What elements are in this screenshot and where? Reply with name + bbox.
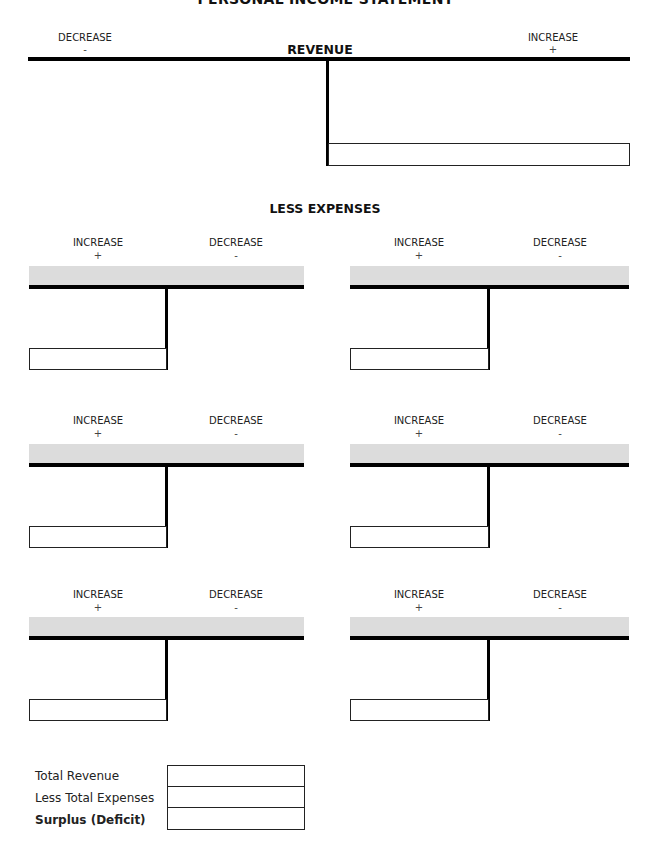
- expense-decrease-label: DECREASE: [176, 589, 296, 601]
- revenue-top-rule: [28, 57, 630, 61]
- expense-decrease-sign: -: [500, 429, 620, 439]
- expense-increase-sign: +: [38, 603, 158, 613]
- revenue-increase-sign: +: [493, 45, 613, 55]
- totals-table: [167, 765, 305, 830]
- expenses-heading: LESS EXPENSES: [225, 201, 425, 216]
- expense-decrease-label: DECREASE: [500, 237, 620, 249]
- expense-decrease-label: DECREASE: [176, 415, 296, 427]
- expense-increase-label: INCREASE: [38, 237, 158, 249]
- surplus-deficit-field[interactable]: [168, 808, 304, 829]
- expense-decrease-label: DECREASE: [176, 237, 296, 249]
- surplus-deficit-label: Surplus (Deficit): [35, 813, 146, 827]
- account-name-field[interactable]: [350, 444, 629, 464]
- revenue-decrease-label: DECREASE: [25, 32, 145, 44]
- expense-decrease-sign: -: [176, 603, 296, 613]
- account-name-field[interactable]: [350, 617, 629, 637]
- revenue-decrease-sign: -: [25, 45, 145, 55]
- expense-total-field[interactable]: [350, 348, 489, 370]
- expense-total-field[interactable]: [29, 348, 167, 370]
- expense-increase-label: INCREASE: [359, 237, 479, 249]
- revenue-total-field[interactable]: [328, 143, 630, 166]
- total-revenue-label: Total Revenue: [35, 769, 119, 783]
- less-total-expenses-field[interactable]: [168, 787, 304, 808]
- account-name-field[interactable]: [29, 617, 304, 637]
- account-name-field[interactable]: [29, 266, 304, 286]
- expense-increase-sign: +: [359, 429, 479, 439]
- expense-decrease-sign: -: [176, 429, 296, 439]
- account-name-field[interactable]: [350, 266, 629, 286]
- expense-total-field[interactable]: [350, 699, 489, 721]
- expense-increase-sign: +: [359, 251, 479, 261]
- expense-increase-sign: +: [38, 251, 158, 261]
- expense-decrease-label: DECREASE: [500, 589, 620, 601]
- total-revenue-field[interactable]: [168, 766, 304, 787]
- expense-increase-label: INCREASE: [359, 415, 479, 427]
- expense-total-field[interactable]: [29, 699, 167, 721]
- expense-decrease-sign: -: [176, 251, 296, 261]
- revenue-heading: REVENUE: [260, 42, 380, 57]
- account-name-field[interactable]: [29, 444, 304, 464]
- expense-decrease-label: DECREASE: [500, 415, 620, 427]
- expense-increase-label: INCREASE: [38, 589, 158, 601]
- document-title: PERSONAL INCOME STATEMENT: [0, 0, 651, 7]
- expense-increase-label: INCREASE: [359, 589, 479, 601]
- expense-decrease-sign: -: [500, 251, 620, 261]
- expense-increase-sign: +: [38, 429, 158, 439]
- expense-total-field[interactable]: [350, 526, 489, 548]
- expense-decrease-sign: -: [500, 603, 620, 613]
- less-total-expenses-label: Less Total Expenses: [35, 791, 154, 805]
- revenue-increase-label: INCREASE: [493, 32, 613, 44]
- expense-total-field[interactable]: [29, 526, 167, 548]
- expense-increase-label: INCREASE: [38, 415, 158, 427]
- expense-increase-sign: +: [359, 603, 479, 613]
